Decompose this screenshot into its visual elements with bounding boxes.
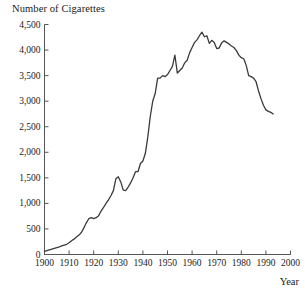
y-tick-label: 2,000 <box>19 147 40 157</box>
x-tick-label: 1970 <box>207 258 226 268</box>
y-tick-label: 1,500 <box>19 173 40 183</box>
x-tick-label: 2000 <box>281 258 300 268</box>
axis-lines <box>45 25 291 255</box>
data-series-line <box>45 32 274 251</box>
x-axis-label: Year <box>280 276 299 287</box>
x-tick-label: 1930 <box>109 258 128 268</box>
x-tick-label: 1950 <box>158 258 177 268</box>
y-tick-label: 4,500 <box>19 20 40 30</box>
y-tick-label: 4,000 <box>19 45 40 55</box>
x-tick-label: 1940 <box>133 258 152 268</box>
y-tick-label: 3,000 <box>19 96 40 106</box>
y-tick-label: 3,500 <box>19 71 40 81</box>
x-tick-label: 1910 <box>60 258 79 268</box>
x-tick-label: 1960 <box>183 258 202 268</box>
x-tick-marks <box>45 251 291 255</box>
x-tick-label: 1990 <box>256 258 275 268</box>
y-tick-label: 2,500 <box>19 122 40 132</box>
y-tick-label: 500 <box>26 224 40 234</box>
x-tick-label: 1920 <box>84 258 103 268</box>
chart-container: Number of Cigarettes 05001,0001,5002,000… <box>0 0 305 291</box>
x-tick-label: 1980 <box>232 258 251 268</box>
chart-plot-area <box>0 0 305 291</box>
x-tick-label: 1900 <box>35 258 54 268</box>
y-tick-marks <box>45 25 49 255</box>
y-tick-label: 1,000 <box>19 198 40 208</box>
